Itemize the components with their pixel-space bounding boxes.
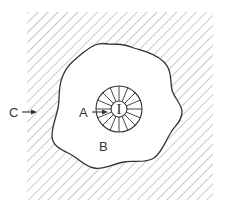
label-a: A	[79, 105, 88, 120]
label-c: C	[9, 105, 18, 120]
label-b: B	[99, 139, 108, 154]
label-i: I	[117, 101, 122, 117]
diagram-canvas: I A B C	[0, 0, 226, 206]
